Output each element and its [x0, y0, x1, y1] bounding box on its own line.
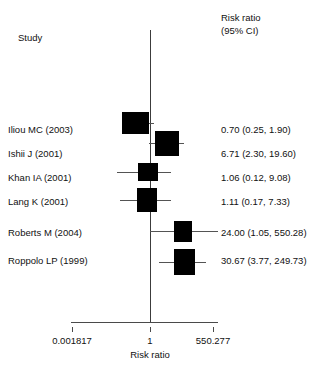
- effect-estimate-label: 6.71 (2.30, 19.60): [221, 148, 296, 159]
- effect-estimate-marker: [138, 163, 158, 181]
- axis-tick-label: 1: [147, 335, 152, 346]
- x-axis-line: [71, 322, 218, 323]
- study-label: Khan IA (2001): [8, 172, 71, 183]
- axis-tick-label: 550.277: [196, 335, 230, 346]
- study-label: Roberts M (2004): [8, 227, 82, 238]
- effect-estimate-marker: [155, 131, 179, 156]
- axis-tick-label: 0.001817: [52, 335, 92, 346]
- axis-tick: [150, 327, 151, 332]
- effect-estimate-label: 24.00 (1.05, 550.28): [221, 227, 307, 238]
- study-column-header: Study: [18, 32, 42, 43]
- study-label: Ishii J (2001): [8, 148, 62, 159]
- axis-tick: [72, 327, 73, 332]
- effect-estimate-label: 1.11 (0.17, 7.33): [221, 196, 290, 207]
- effect-estimate-label: 1.06 (0.12, 9.08): [221, 172, 291, 183]
- effect-column-header-line2: (95% CI): [221, 25, 258, 36]
- forest-plot: Study Risk ratio (95% CI) Iliou MC (2003…: [0, 0, 327, 367]
- study-label: Iliou MC (2003): [8, 124, 73, 135]
- effect-estimate-marker: [174, 249, 195, 275]
- study-label: Lang K (2001): [8, 196, 68, 207]
- effect-column-header-line1: Risk ratio: [221, 12, 261, 23]
- effect-estimate-marker: [137, 188, 157, 212]
- effect-estimate-marker: [122, 112, 149, 134]
- study-label: Roppolo LP (1999): [8, 255, 88, 266]
- effect-estimate-marker: [174, 221, 192, 242]
- x-axis-title: Risk ratio: [130, 349, 170, 360]
- axis-tick: [213, 327, 214, 332]
- effect-estimate-label: 0.70 (0.25, 1.90): [221, 124, 291, 135]
- effect-estimate-label: 30.67 (3.77, 249.73): [221, 255, 307, 266]
